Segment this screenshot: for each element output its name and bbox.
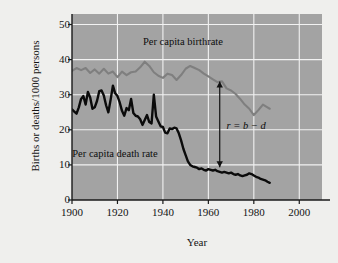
growth-rate-equation-label: r = b − d bbox=[227, 120, 266, 131]
y-axis-tick-label: 20 bbox=[44, 124, 70, 135]
y-axis-tick-group: 01020304050 bbox=[40, 0, 70, 263]
x-axis-tick-label: 1900 bbox=[52, 206, 92, 218]
x-axis-tick-label: 1960 bbox=[188, 206, 228, 218]
y-axis-tick-label: 40 bbox=[44, 54, 70, 65]
x-axis-title: Year bbox=[72, 236, 322, 248]
x-axis-tick-label: 2000 bbox=[279, 206, 319, 218]
deathrate-series-label: Per capita death rate bbox=[72, 148, 157, 159]
x-axis-tick-label: 1980 bbox=[234, 206, 274, 218]
x-axis-tick-label: 1920 bbox=[97, 206, 137, 218]
y-axis-tick-label: 10 bbox=[44, 159, 70, 170]
x-axis-tick-label: 1940 bbox=[143, 206, 183, 218]
y-axis-tick-label: 0 bbox=[44, 194, 70, 205]
y-axis-tick-label: 30 bbox=[44, 89, 70, 100]
y-axis-tick-label: 50 bbox=[44, 19, 70, 30]
birthrate-series-label: Per capita birthrate bbox=[143, 36, 223, 47]
series-line-birthrate bbox=[72, 62, 270, 115]
figure-canvas: Births or deaths/1000 persons 0102030405… bbox=[0, 0, 338, 263]
